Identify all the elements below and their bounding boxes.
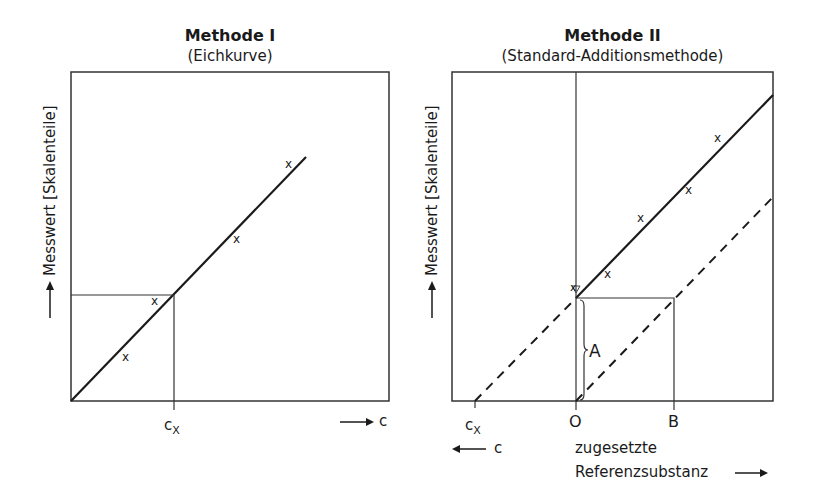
panel-2-y-axis-label: Messwert [Skalenteile] [423, 105, 441, 276]
data-point-marker: x [604, 268, 611, 280]
data-point-marker: x [637, 212, 644, 224]
added-label-line2: Referenzsubstanz [575, 465, 708, 480]
panel-1-graphics [46, 72, 389, 426]
panel-2-subtitle: (Standard-Additionsmethode) [452, 47, 773, 65]
panel-1-title: Methode I [71, 26, 389, 45]
ref-arrowhead-icon [760, 469, 768, 477]
calibration-line [71, 157, 306, 401]
panel-2-title: Methode II [452, 26, 773, 45]
neg-c-label: c [494, 441, 502, 456]
data-point-marker: x [233, 233, 240, 245]
a-label: A [589, 343, 601, 360]
b-label: B [668, 414, 679, 430]
panel-2-graphics [428, 72, 773, 477]
panel-2-frame [452, 72, 773, 401]
added-label-line1: zugesetzte [575, 441, 657, 456]
data-point-marker: x [151, 295, 158, 307]
y-arrowhead-icon [46, 281, 54, 290]
panel-1-y-axis-label: Messwert [Skalenteile] [41, 105, 59, 276]
c-arrowhead-icon [366, 418, 374, 426]
cx-label-2: cX [465, 418, 481, 436]
origin-label: O [569, 414, 582, 430]
data-point-marker: x [714, 132, 721, 144]
diagram-graphics [0, 0, 815, 494]
extrapolation-dashed-line [475, 298, 576, 401]
brace-a-icon [580, 300, 588, 400]
cx-label: cX [164, 418, 180, 436]
data-point-marker: x [685, 184, 692, 196]
y2-arrowhead-icon [428, 281, 436, 290]
data-point-marker: x [570, 282, 577, 293]
data-point-marker: x [122, 351, 129, 363]
neg-c-arrowhead-icon [452, 445, 460, 453]
panel-1-subtitle: (Eichkurve) [71, 47, 389, 65]
data-point-marker: x [285, 158, 292, 170]
c-axis-label: c [379, 414, 387, 429]
